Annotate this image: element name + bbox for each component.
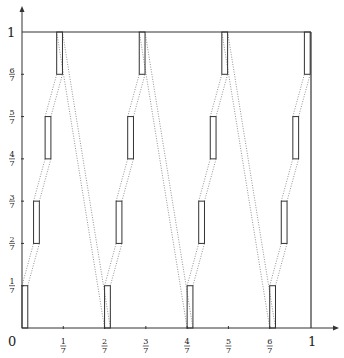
x-tick-numerator: 5 bbox=[226, 337, 231, 346]
dotted-connector bbox=[122, 159, 134, 201]
interval-rectangle bbox=[116, 201, 122, 243]
dotted-connector bbox=[204, 159, 216, 201]
interval-rectangle bbox=[139, 32, 145, 74]
y-axis-end-label: 1 bbox=[7, 25, 15, 40]
interval-rectangle bbox=[293, 117, 299, 159]
dotted-connector bbox=[39, 159, 51, 201]
y-axis-arrow-icon bbox=[20, 6, 25, 12]
y-tick-label: 67 bbox=[9, 66, 15, 84]
dotted-connector bbox=[199, 159, 211, 201]
dotted-connector bbox=[133, 74, 145, 116]
y-tick-denominator: 7 bbox=[9, 117, 14, 126]
interval-rectangle bbox=[128, 117, 134, 159]
dotted-connector bbox=[62, 32, 110, 328]
x-tick-numerator: 4 bbox=[185, 337, 190, 346]
x-tick-denominator: 7 bbox=[226, 346, 231, 355]
dotted-connector bbox=[299, 74, 311, 116]
axes bbox=[20, 6, 340, 331]
x-tick-label: 57 bbox=[225, 337, 231, 355]
origin-label: 0 bbox=[8, 334, 16, 349]
y-tick-label: 37 bbox=[9, 193, 15, 211]
interval-rectangle bbox=[199, 201, 205, 243]
y-tick-label: 17 bbox=[9, 277, 15, 295]
y-tick-label: 27 bbox=[9, 235, 15, 253]
dotted-connector bbox=[281, 159, 293, 201]
dotted-connector bbox=[270, 243, 282, 285]
dotted-trajectory bbox=[22, 32, 310, 328]
dotted-connector bbox=[116, 159, 128, 201]
x-tick-numerator: 2 bbox=[102, 337, 107, 346]
dotted-connector bbox=[57, 32, 105, 328]
y-tick-label: 47 bbox=[9, 150, 15, 168]
y-tick-denominator: 7 bbox=[9, 201, 14, 210]
dotted-connector bbox=[216, 74, 228, 116]
dotted-connector bbox=[110, 243, 122, 285]
dotted-connector bbox=[34, 159, 46, 201]
interval-rectangle bbox=[22, 286, 28, 328]
dotted-connector bbox=[287, 159, 299, 201]
dotted-connector bbox=[28, 243, 40, 285]
interval-rectangle bbox=[210, 117, 216, 159]
dotted-connector bbox=[222, 32, 270, 328]
x-tick-denominator: 7 bbox=[61, 346, 66, 355]
y-tick-denominator: 7 bbox=[9, 159, 14, 168]
y-tick-denominator: 7 bbox=[9, 243, 14, 252]
dotted-connector bbox=[105, 243, 117, 285]
dotted-connector bbox=[22, 243, 34, 285]
x-tick-denominator: 7 bbox=[267, 346, 272, 355]
dotted-connector bbox=[210, 74, 222, 116]
x-tick-denominator: 7 bbox=[102, 346, 107, 355]
dotted-connector bbox=[139, 32, 187, 328]
x-tick-label: 37 bbox=[143, 337, 149, 355]
dotted-connector bbox=[228, 32, 276, 328]
x-tick-label: 47 bbox=[184, 337, 190, 355]
x-tick-denominator: 7 bbox=[143, 346, 148, 355]
x-tick-label: 27 bbox=[102, 337, 108, 355]
x-tick-numerator: 3 bbox=[143, 337, 148, 346]
x-tick-numerator: 1 bbox=[61, 337, 66, 346]
interval-rectangle bbox=[57, 32, 63, 74]
dotted-connector bbox=[128, 74, 140, 116]
dotted-connector bbox=[45, 74, 57, 116]
interval-rectangle bbox=[45, 117, 51, 159]
x-tick-label: 67 bbox=[267, 337, 273, 355]
x-axis-end-label: 1 bbox=[308, 334, 316, 349]
diagram-canvas: 0 1 1 172737475767172737475767 bbox=[0, 0, 344, 358]
y-tick-label: 57 bbox=[9, 108, 15, 126]
y-tick-denominator: 7 bbox=[9, 74, 14, 83]
x-tick-numerator: 6 bbox=[267, 337, 272, 346]
y-tick-denominator: 7 bbox=[9, 286, 14, 295]
interval-rectangle bbox=[304, 32, 310, 74]
dotted-connector bbox=[275, 243, 287, 285]
interval-rectangle bbox=[222, 32, 228, 74]
rectangles bbox=[22, 32, 310, 328]
interval-rectangle bbox=[281, 201, 287, 243]
x-tick-label: 17 bbox=[60, 337, 66, 355]
x-tick-denominator: 7 bbox=[185, 346, 190, 355]
dotted-connector bbox=[193, 243, 205, 285]
dotted-connector bbox=[293, 74, 305, 116]
dotted-connector bbox=[51, 74, 63, 116]
interval-rectangle bbox=[34, 201, 40, 243]
x-axis-arrow-icon bbox=[333, 326, 339, 331]
dotted-connector bbox=[145, 32, 193, 328]
dotted-connector bbox=[187, 243, 199, 285]
